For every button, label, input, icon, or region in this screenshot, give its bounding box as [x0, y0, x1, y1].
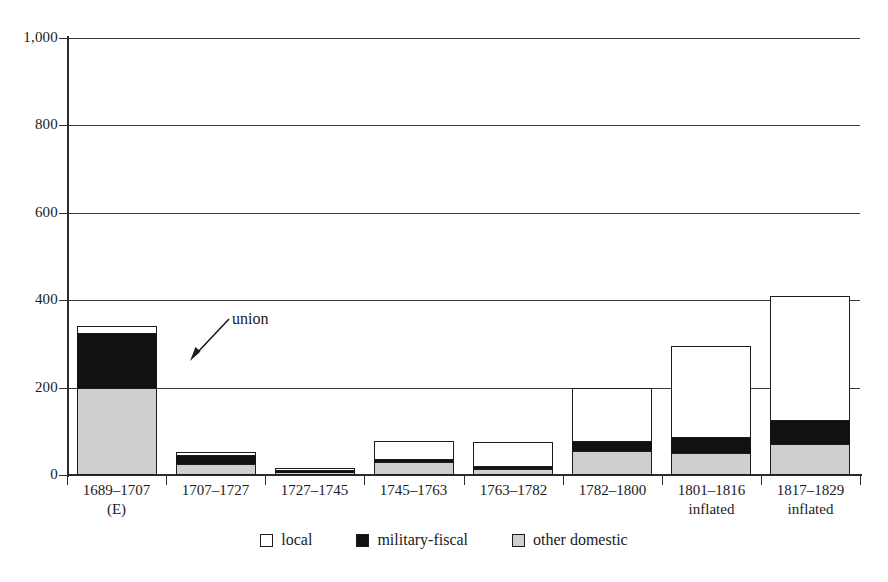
bar-segment-local	[473, 442, 553, 467]
bar-segment-military	[275, 471, 355, 473]
stacked-bar-chart: 02004006008001,000 1689–1707(E)1707–1727…	[0, 0, 888, 582]
bar-segment-military	[770, 421, 850, 444]
y-tick-label: 200	[6, 380, 58, 395]
x-axis-label-text: 1707–1727	[182, 482, 250, 498]
white-square-icon	[260, 534, 273, 547]
x-axis-sublabel-text: inflated	[662, 500, 761, 519]
black-square-icon	[356, 534, 369, 547]
annotation-union-arrow-icon	[180, 310, 240, 370]
gray-square-icon	[512, 534, 525, 547]
bar-segment-other	[176, 464, 256, 475]
x-axis-sublabel-text: (E)	[67, 500, 166, 519]
bar-segment-local	[374, 441, 454, 460]
x-axis-sublabel-text: inflated	[761, 500, 860, 519]
x-axis-label: 1763–1782	[464, 481, 563, 500]
bar-segment-military	[176, 456, 256, 464]
x-axis-label: 1801–1816inflated	[662, 481, 761, 519]
x-axis-label-text: 1689–1707	[83, 482, 151, 498]
bar-segment-military	[374, 460, 454, 462]
bar-segment-military	[77, 334, 157, 387]
bar-segment-local	[770, 296, 850, 421]
chart-legend: localmilitary-fiscalother domestic	[0, 532, 888, 548]
x-axis-label-text: 1817–1829	[777, 482, 845, 498]
bar-segment-other	[770, 444, 850, 475]
bar-1817-1829	[770, 38, 850, 475]
y-axis-line	[67, 36, 69, 477]
x-axis-label: 1727–1745	[265, 481, 364, 500]
y-tick-label: 400	[6, 292, 58, 307]
x-axis-label: 1782–1800	[563, 481, 662, 500]
y-tick-label-wrap-600: 600	[0, 205, 58, 220]
bar-segment-other	[374, 462, 454, 475]
legend-item-other-domestic: other domestic	[512, 532, 628, 548]
bar-segment-other	[275, 472, 355, 475]
bar-segment-other	[572, 451, 652, 475]
legend-item-military-fiscal: military-fiscal	[356, 532, 468, 548]
y-tick-label: 800	[6, 117, 58, 132]
y-tick-label: 0	[6, 467, 58, 482]
bar-segment-local	[77, 326, 157, 334]
bar-segment-local	[671, 346, 751, 438]
y-tick-label: 600	[6, 205, 58, 220]
bar-1801-1816	[671, 38, 751, 475]
bar-1763-1782	[473, 38, 553, 475]
x-axis-label: 1689–1707(E)	[67, 481, 166, 519]
legend-item-local: local	[260, 532, 312, 548]
legend-item-label: military-fiscal	[377, 532, 468, 548]
legend-item-label: local	[281, 532, 312, 548]
bar-segment-other	[77, 388, 157, 475]
bar-segment-local	[275, 468, 355, 470]
bar-1707-1727	[176, 38, 256, 475]
x-axis-label: 1817–1829inflated	[761, 481, 860, 519]
x-axis-label-text: 1763–1782	[480, 482, 548, 498]
x-tick-mark-8	[860, 476, 861, 485]
y-tick-label-wrap-0: 0	[0, 467, 58, 482]
bar-segment-local	[176, 452, 256, 456]
y-tick-label-wrap-200: 200	[0, 380, 58, 395]
x-axis-label: 1707–1727	[166, 481, 265, 500]
bar-segment-military	[572, 442, 652, 451]
x-axis-label-text: 1801–1816	[678, 482, 746, 498]
x-axis-label-text: 1745–1763	[380, 482, 448, 498]
bar-1745-1763	[374, 38, 454, 475]
bar-1782-1800	[572, 38, 652, 475]
bar-segment-military	[671, 438, 751, 453]
bar-1689-1707	[77, 38, 157, 475]
legend-item-label: other domestic	[533, 532, 628, 548]
x-axis-label: 1745–1763	[364, 481, 463, 500]
bar-segment-other	[473, 469, 553, 475]
y-tick-label-wrap-800: 800	[0, 117, 58, 132]
x-axis-label-text: 1782–1800	[579, 482, 647, 498]
y-tick-label-wrap-1000: 1,000	[0, 30, 58, 45]
bar-1727-1745	[275, 38, 355, 475]
y-tick-label: 1,000	[6, 30, 58, 45]
bar-segment-military	[473, 467, 553, 469]
bar-segment-other	[671, 453, 751, 475]
y-tick-label-wrap-400: 400	[0, 292, 58, 307]
x-axis-label-text: 1727–1745	[281, 482, 349, 498]
bar-segment-local	[572, 388, 652, 442]
